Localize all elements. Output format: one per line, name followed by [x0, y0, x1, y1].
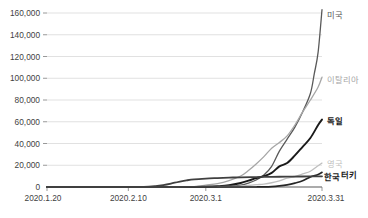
y-axis-tick-label: 140,000 — [10, 30, 40, 40]
y-axis-tick-label: 80,000 — [15, 95, 41, 105]
x-axis-tick-label: 2020.3.31 — [308, 193, 345, 203]
series-label-이탈리아: 이탈리아 — [327, 75, 359, 85]
series-label-독일: 독일 — [327, 116, 343, 126]
series-line-미국 — [47, 10, 322, 187]
y-axis-tick-label: 40,000 — [15, 139, 41, 149]
x-axis-tick-labels: 2020.1.202020.2.102020.3.12020.3.31 — [25, 193, 345, 203]
series-line-터키 — [47, 172, 322, 187]
series-label-영국: 영국 — [327, 159, 343, 169]
x-axis-tick-label: 2020.3.1 — [190, 193, 223, 203]
x-axis-tick-label: 2020.2.10 — [110, 193, 147, 203]
y-axis-tick-label: 0 — [35, 182, 40, 192]
y-axis-tick-label: 160,000 — [10, 8, 40, 18]
series-labels: 미국이탈리아독일영국터키한국 — [324, 10, 359, 182]
series-line-이탈리아 — [47, 77, 322, 187]
series-label-터키: 터키 — [341, 170, 357, 180]
x-axis-tick-label: 2020.1.20 — [25, 193, 62, 203]
series-label-한국: 한국 — [324, 172, 340, 182]
y-axis-tick-labels: 020,00040,00060,00080,000100,000120,0001… — [10, 8, 47, 192]
y-axis-tick-label: 60,000 — [15, 117, 41, 127]
y-axis-tick-label: 120,000 — [10, 52, 40, 62]
line-chart: 020,00040,00060,00080,000100,000120,0001… — [0, 0, 368, 218]
chart-canvas: 020,00040,00060,00080,000100,000120,0001… — [0, 0, 368, 218]
y-axis-tick-label: 100,000 — [10, 73, 40, 83]
gridlines — [47, 13, 322, 165]
y-axis-tick-label: 20,000 — [15, 160, 41, 170]
series-lines — [47, 10, 322, 187]
series-label-미국: 미국 — [327, 10, 343, 20]
